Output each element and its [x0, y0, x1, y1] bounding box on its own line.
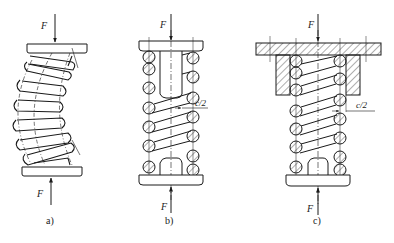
bottom-end-plate — [139, 175, 203, 185]
spring-guidance-diagram: F F a) — [0, 0, 394, 243]
diagram-canvas: F F a) — [0, 0, 394, 243]
buckled-axis — [34, 53, 52, 165]
guide-sleeve-wall-right — [346, 55, 360, 95]
caption-a: a) — [46, 215, 54, 227]
buckled-spring-coils — [13, 48, 80, 165]
force-label-c-bottom: F — [306, 203, 314, 214]
caption-b: b) — [165, 215, 173, 227]
bottom-end-plate — [22, 167, 82, 176]
caption-c: c) — [313, 215, 321, 227]
clearance-label-c: c/2 — [356, 100, 367, 110]
guide-sleeve-wall-left — [276, 55, 290, 95]
clearance-label-b: c/2 — [195, 98, 206, 108]
figure-b — [139, 14, 208, 213]
force-label-c-top: F — [307, 19, 315, 30]
top-end-plate — [27, 44, 87, 53]
guide-sleeve-flange — [256, 43, 381, 55]
figure-c — [256, 14, 381, 215]
figure-a — [13, 14, 87, 205]
force-label-a-bottom: F — [36, 188, 44, 199]
spring-wire-sections — [143, 51, 199, 176]
bottom-end-plate — [286, 175, 350, 186]
force-label-b-bottom: F — [160, 201, 168, 212]
force-label-a-top: F — [40, 20, 48, 31]
force-label-b-top: F — [159, 19, 167, 30]
